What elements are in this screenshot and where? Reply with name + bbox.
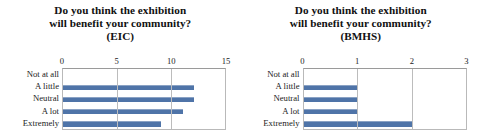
bar (304, 85, 359, 90)
category-label: A little (0, 80, 62, 92)
bar (304, 109, 359, 114)
category-label: Not at all (0, 68, 62, 80)
title-line-2: will benefit your community? (0, 17, 241, 30)
x-axis-eic: 051015 (0, 56, 241, 68)
x-tick-label: 2 (410, 56, 414, 66)
title-line-3: (EIC) (0, 30, 241, 43)
gridline (357, 69, 358, 129)
bar (63, 85, 194, 90)
plot-wrapper-bmhs: 0123 Not at allA littleNeutralA lotExtre… (241, 56, 481, 138)
category-label: Extremely (0, 117, 62, 129)
bar-slot (63, 93, 225, 105)
category-label: Neutral (0, 92, 62, 104)
title-line-1: Do you think the exhibition (0, 4, 241, 17)
x-tick-label: 0 (300, 56, 304, 66)
x-tick-label: 0 (60, 56, 64, 66)
chart-panel-eic: Do you think the exhibition will benefit… (0, 0, 241, 138)
bar (63, 97, 194, 102)
category-labels-eic: Not at allA littleNeutralA lotExtremely (0, 68, 62, 130)
x-tick-label: 5 (115, 56, 119, 66)
category-label: A lot (0, 105, 62, 117)
gridline (412, 69, 413, 129)
category-label: Not at all (241, 68, 303, 80)
bar (63, 109, 183, 114)
chart-title-eic: Do you think the exhibition will benefit… (0, 0, 241, 44)
x-tick-label: 15 (222, 56, 231, 66)
bar-slot (304, 81, 466, 93)
figure-container: Do you think the exhibition will benefit… (0, 0, 481, 138)
bar-series-eic (63, 69, 225, 129)
bar-slot (63, 106, 225, 118)
bar-slot (63, 118, 225, 130)
category-label: Extremely (241, 117, 303, 129)
plot-wrapper-eic: 051015 Not at allA littleNeutralA lotExt… (0, 56, 241, 138)
category-label: A little (241, 80, 303, 92)
x-tick-label: 3 (464, 56, 468, 66)
x-tick-label: 10 (167, 56, 176, 66)
title-line-3: (BMHS) (241, 30, 481, 43)
gridline (171, 69, 172, 129)
bar-slot (63, 69, 225, 81)
x-tick-label: 1 (355, 56, 359, 66)
bar-slot (304, 106, 466, 118)
chart-title-bmhs: Do you think the exhibition will benefit… (241, 0, 481, 44)
category-label: A lot (241, 105, 303, 117)
x-axis-bmhs: 0123 (241, 56, 481, 68)
title-line-2: will benefit your community? (241, 17, 481, 30)
bar-series-bmhs (304, 69, 466, 129)
bar-slot (63, 81, 225, 93)
bar (304, 97, 359, 102)
plot-area-eic (62, 68, 226, 130)
bar-slot (304, 93, 466, 105)
category-label: Neutral (241, 92, 303, 104)
plot-area-bmhs (303, 68, 467, 130)
chart-panel-bmhs: Do you think the exhibition will benefit… (241, 0, 481, 138)
title-line-1: Do you think the exhibition (241, 4, 481, 17)
bar (304, 121, 413, 126)
category-labels-bmhs: Not at allA littleNeutralA lotExtremely (241, 68, 303, 130)
bar-slot (304, 118, 466, 130)
gridline (117, 69, 118, 129)
bar-slot (304, 69, 466, 81)
bar (63, 121, 161, 126)
